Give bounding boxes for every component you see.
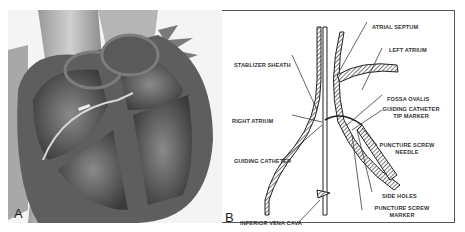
panel-b-schematic: ATRIAL SEPTUM LEFT ATRIUM STABLIZER SHEA… bbox=[222, 10, 455, 223]
panel-b-label: B bbox=[225, 210, 234, 225]
panel-a-label: A bbox=[14, 206, 23, 221]
label-right-atrium: RIGHT ATRIUM bbox=[232, 118, 273, 125]
label-guiding-catheter-tip-marker: GUIDING CATHETER TIP MARKER bbox=[379, 106, 443, 119]
label-stablizer-sheath: STABLIZER SHEATH bbox=[234, 62, 291, 69]
heart-illustration bbox=[8, 10, 222, 223]
label-fossa-ovalis: FOSSA OVALIS bbox=[387, 96, 429, 103]
label-guiding-catheter: GUIDING CATHETER bbox=[234, 158, 291, 165]
label-puncture-screw-marker: PUNCTURE SCREW MARKER bbox=[374, 205, 430, 218]
label-left-atrium: LEFT ATRIUM bbox=[389, 47, 427, 54]
label-inferior-vena-cava: INFERIOR VENA CAVA bbox=[240, 220, 302, 227]
label-puncture-screw-needle: PUNCTURE SCREW NEEDLE bbox=[379, 142, 435, 155]
label-atrial-septum: ATRIAL SEPTUM bbox=[372, 24, 418, 31]
panel-a-heart-illustration: A bbox=[8, 10, 222, 223]
label-side-holes: SIDE HOLES bbox=[382, 193, 417, 200]
